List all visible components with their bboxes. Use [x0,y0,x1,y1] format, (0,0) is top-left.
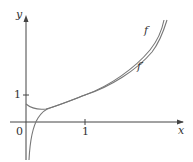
f-label: f [144,24,148,37]
f-prime-label: f′ [137,60,144,73]
y-axis-label: y [16,8,22,21]
graph: y x 0 1 1 f f′ [0,0,193,162]
origin-label: 0 [16,125,23,138]
x-axis-label: x [178,124,184,137]
y-tick-label: 1 [14,88,21,101]
curve-f-prime [29,20,167,160]
y-axis-arrow-icon [24,15,29,22]
plot-area [0,0,193,162]
x-tick-label: 1 [82,125,89,138]
